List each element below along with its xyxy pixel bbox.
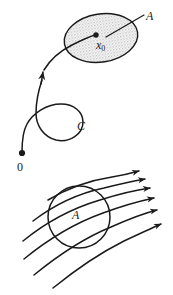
label-set-A-bottom: A [72, 209, 79, 221]
top-panel-group [19, 9, 144, 157]
streamline-4 [24, 198, 154, 259]
streamline-6 [53, 224, 161, 288]
trajectory-arrow-segment [41, 72, 43, 84]
trajectory-curve-C [22, 80, 83, 152]
label-curve-C: C [77, 120, 85, 132]
label-point-x0: x0 [96, 39, 105, 51]
label-x0-subscript: 0 [101, 44, 105, 53]
origin-dot [19, 150, 25, 156]
figure-canvas [0, 0, 173, 295]
point-x0-dot [93, 32, 98, 37]
figure-root: A x0 C 0 A [0, 0, 173, 295]
bottom-panel-group [23, 171, 161, 288]
streamline-1 [48, 171, 139, 200]
label-set-A-top: A [146, 10, 153, 22]
streamline-2 [33, 179, 145, 221]
label-origin-zero: 0 [17, 161, 23, 173]
